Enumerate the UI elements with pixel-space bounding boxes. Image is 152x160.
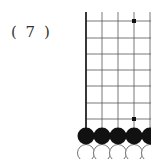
board-grid — [86, 12, 151, 128]
star-point — [132, 19, 136, 23]
white-stones — [78, 145, 152, 160]
white-stone — [94, 145, 111, 160]
star-point — [132, 117, 136, 121]
white-stone — [78, 145, 95, 160]
white-stone — [126, 145, 143, 160]
black-stones — [78, 128, 152, 145]
white-stone — [110, 145, 127, 160]
white-stone — [142, 145, 152, 160]
go-board — [0, 0, 151, 159]
black-stone — [94, 128, 111, 145]
black-stone — [126, 128, 143, 145]
black-stone — [142, 128, 152, 145]
black-stone — [110, 128, 127, 145]
black-stone — [78, 128, 95, 145]
